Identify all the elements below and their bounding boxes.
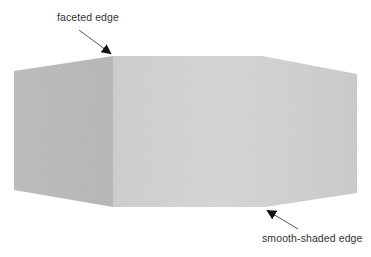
right-face: [113, 56, 357, 207]
smooth-shaded-edge-label: smooth-shaded edge: [262, 232, 362, 244]
smooth-edge-arrow: [268, 211, 298, 229]
figure-canvas: faceted edge smooth-shaded edge: [0, 0, 371, 257]
faceted-edge-arrow: [79, 30, 110, 53]
prism-diagram: [0, 0, 371, 257]
left-face: [14, 56, 113, 207]
faceted-edge-label: faceted edge: [57, 11, 119, 23]
